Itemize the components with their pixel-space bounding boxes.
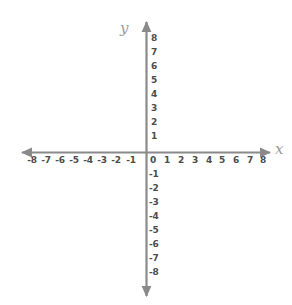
y-tick-positive: 4 bbox=[151, 89, 165, 99]
x-tick-negative: -2 bbox=[108, 155, 124, 165]
y-tick-negative: -5 bbox=[149, 225, 163, 235]
y-axis-label: y bbox=[120, 21, 128, 36]
y-tick-positive: 5 bbox=[151, 75, 165, 85]
y-tick-negative: -1 bbox=[149, 169, 163, 179]
axes-lines bbox=[0, 0, 292, 305]
x-tick-negative: -1 bbox=[123, 155, 139, 165]
y-tick-negative: -7 bbox=[149, 253, 163, 263]
y-tick-positive: 6 bbox=[151, 61, 165, 71]
y-tick-positive: 1 bbox=[151, 131, 165, 141]
x-axis-label: x bbox=[275, 142, 283, 157]
y-tick-negative: -6 bbox=[149, 239, 163, 249]
y-tick-negative: -8 bbox=[149, 267, 163, 277]
y-tick-positive: 3 bbox=[151, 103, 165, 113]
y-tick-positive: 7 bbox=[151, 47, 165, 57]
y-tick-positive: 8 bbox=[151, 33, 165, 43]
coordinate-plane: y x 0 1 2 3 4 5 6 7 8 -8 -7 -6 -5 -4 -3 … bbox=[0, 0, 292, 305]
y-tick-negative: -3 bbox=[149, 197, 163, 207]
y-tick-negative: -4 bbox=[149, 211, 163, 221]
x-tick-positive: 8 bbox=[255, 155, 271, 165]
y-tick-positive: 2 bbox=[151, 117, 165, 127]
y-tick-negative: -2 bbox=[149, 183, 163, 193]
